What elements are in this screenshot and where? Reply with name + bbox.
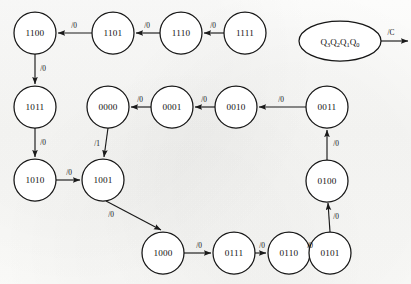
node-label: 1011 (26, 102, 45, 112)
state-node-0010[interactable]: 0010 (215, 86, 257, 128)
edge-label-1001-1000: /0 (108, 210, 114, 219)
state-node-0000[interactable]: 0000 (87, 86, 129, 128)
edge-label-0100-0011: /0 (333, 139, 339, 148)
node-label: 1000 (153, 248, 172, 258)
edges-layer (35, 33, 408, 253)
node-label: 1101 (104, 28, 123, 38)
state-node-1011[interactable]: 1011 (14, 86, 56, 128)
node-label: 1100 (26, 28, 45, 38)
edge-label-0000-1001: /1 (94, 139, 100, 148)
node-label: 1111 (236, 28, 254, 38)
state-node-1111[interactable]: 1111 (224, 12, 266, 54)
node-label: 1010 (25, 175, 44, 185)
edge-label-1010-1001: /0 (66, 168, 72, 177)
node-label: 0110 (280, 248, 299, 258)
state-node-1110[interactable]: 1110 (160, 12, 202, 54)
edge-label-1101-1100: /0 (71, 21, 77, 30)
edge-label-1011-1010: /0 (40, 138, 46, 147)
node-label: 0101 (320, 248, 339, 258)
state-node-1101[interactable]: 1101 (92, 12, 134, 54)
edge-label-0011-0010: /0 (278, 95, 284, 104)
state-node-0001[interactable]: 0001 (151, 86, 193, 128)
fsm-svg: 1100 1101 1110 1111 1011 0000 (0, 0, 411, 284)
state-diagram-canvas: 1100 1101 1110 1111 1011 0000 (0, 0, 411, 284)
state-node-0101[interactable]: 0101 (309, 232, 351, 274)
node-label: 0010 (226, 102, 245, 112)
edge-label-0110-0101: /0 (307, 241, 313, 250)
legend-state-vector-label: Q3Q2Q1Q0 (321, 37, 360, 48)
state-node-1001[interactable]: 1001 (82, 159, 124, 201)
legend-output-label: /C (388, 28, 395, 37)
legend-q0-sub: 0 (356, 41, 359, 48)
state-node-0100[interactable]: 0100 (306, 160, 348, 202)
nodes-layer: 1100 1101 1110 1111 1011 0000 (14, 12, 381, 274)
node-label: 1110 (172, 28, 191, 38)
edge-0000-to-1001 (104, 128, 108, 157)
edge-1001-to-1000 (106, 201, 161, 230)
state-node-0110[interactable]: 0110 (268, 232, 310, 274)
edge-label-1110-1101: /0 (144, 21, 150, 30)
node-label: 0001 (162, 102, 181, 112)
state-node-1000[interactable]: 1000 (142, 232, 184, 274)
node-label: 0000 (98, 102, 117, 112)
edge-label-0010-0001: /0 (201, 95, 207, 104)
state-node-0011[interactable]: 0011 (306, 86, 348, 128)
edge-label-1111-1110: /0 (210, 21, 216, 30)
node-label: 0100 (317, 176, 336, 186)
state-node-1100[interactable]: 1100 (14, 12, 56, 54)
state-node-0111[interactable]: 0111 (213, 232, 255, 274)
node-label: 1001 (93, 175, 112, 185)
node-label: 0011 (318, 102, 337, 112)
edge-0101-to-0100 (328, 203, 330, 232)
edge-label-1000-0111: /0 (196, 241, 202, 250)
edge-label-0111-0110: /0 (259, 241, 265, 250)
edge-label-0001-0000: /0 (137, 95, 143, 104)
state-node-1010[interactable]: 1010 (14, 159, 56, 201)
legend-state-vector[interactable]: Q3Q2Q1Q0 (299, 21, 381, 61)
edge-label-0101-0100: /0 (333, 212, 339, 221)
node-label: 0111 (225, 248, 244, 258)
edge-label-1100-1011: /0 (40, 64, 46, 73)
